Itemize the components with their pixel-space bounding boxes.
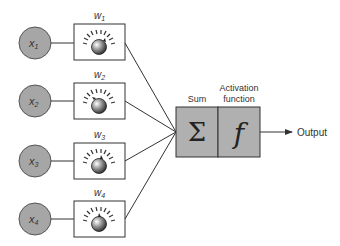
weight-label-w2: w2 (94, 69, 105, 81)
input-row-2: x2 w2 (19, 69, 176, 132)
weighted-connection (125, 132, 176, 161)
sum-caption: Sum (188, 94, 207, 104)
weighted-connection (125, 132, 176, 219)
weight-label-w1: w1 (94, 10, 105, 22)
neuron-diagram: x1 w1 x2 w2 (0, 0, 340, 246)
weighted-connection (125, 101, 176, 132)
weighted-connection (125, 43, 176, 132)
weight-label-w4: w4 (94, 187, 105, 199)
weight-label-w3: w3 (94, 129, 105, 141)
sigma-icon: Σ (188, 117, 206, 147)
output-label: Output (297, 127, 327, 138)
activation-caption-line2: function (223, 94, 255, 104)
activation-caption-line1: Activation (219, 83, 258, 93)
